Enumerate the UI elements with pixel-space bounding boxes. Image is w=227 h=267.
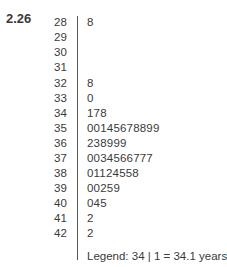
leaves: 238999 (87, 136, 127, 151)
stem: 32 (54, 76, 74, 91)
stem: 30 (54, 45, 74, 60)
leaves: 8 (87, 76, 94, 91)
stem: 28 (54, 15, 74, 30)
stem: 34 (54, 106, 74, 121)
leaves: 2 (87, 226, 94, 241)
leaves: 00145678899 (87, 121, 160, 136)
stem-and-leaf-plot: 28 8 29 30 31 32 8 33 0 34 178 35 001456… (0, 0, 227, 267)
plot-legend: Legend: 34 | 1 = 34.1 years (87, 250, 227, 262)
stem: 38 (54, 166, 74, 181)
stem: 29 (54, 30, 74, 45)
stem: 37 (54, 151, 74, 166)
leaves: 0 (87, 91, 94, 106)
leaves: 8 (87, 15, 94, 30)
stem: 41 (54, 211, 74, 226)
stem: 42 (54, 226, 74, 241)
stem: 39 (54, 181, 74, 196)
stem: 40 (54, 196, 74, 211)
stem: 36 (54, 136, 74, 151)
leaves: 00259 (87, 181, 120, 196)
leaves: 178 (87, 106, 107, 121)
stem: 31 (54, 60, 74, 75)
stem: 35 (54, 121, 74, 136)
leaves: 0034566777 (87, 151, 153, 166)
leaves: 045 (87, 196, 107, 211)
stem-leaf-divider (77, 16, 78, 260)
leaves: 01124558 (87, 166, 139, 181)
leaves: 2 (87, 211, 94, 226)
stem: 33 (54, 91, 74, 106)
